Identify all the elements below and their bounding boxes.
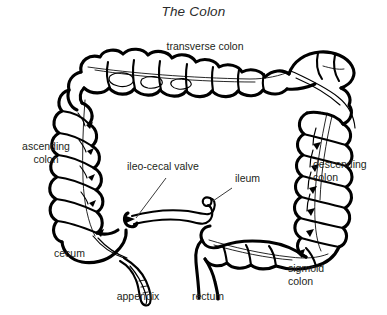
- figure-title: The Colon: [0, 4, 387, 19]
- label-ascending-colon: ascending colon: [8, 140, 84, 165]
- label-appendix: appendix: [106, 290, 170, 303]
- label-ileo-cecal-valve: ileo-cecal valve: [127, 160, 231, 173]
- label-transverse-colon: transverse colon: [150, 40, 260, 53]
- descending-colon-shape: [294, 112, 352, 257]
- transverse-colon-shape: [81, 49, 291, 96]
- ascending-colon-shape: [50, 90, 103, 242]
- label-rectum: rectum: [180, 290, 236, 303]
- colon-diagram: The Colon: [0, 0, 387, 315]
- label-sigmoid-colon: sigmoid colon: [288, 262, 354, 287]
- label-descending-colon: descending colon: [313, 158, 387, 183]
- leader-ileum: [213, 188, 232, 201]
- splenic-flexure-shape: [287, 52, 355, 128]
- ileum-shape: [124, 197, 214, 226]
- label-cecum: cecum: [54, 247, 102, 260]
- label-ileum: ileum: [235, 172, 279, 185]
